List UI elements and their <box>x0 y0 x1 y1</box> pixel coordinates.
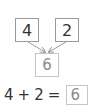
equation: 4 + 2 = 6 <box>4 84 88 105</box>
result-box: 6 <box>66 85 88 105</box>
whole-box: 6 <box>35 53 59 77</box>
operator: + <box>18 86 31 104</box>
equals-sign: = <box>48 86 61 104</box>
operand-b: 2 <box>34 86 44 104</box>
whole-value: 6 <box>42 56 52 74</box>
operand-a: 4 <box>4 86 14 104</box>
result-value: 6 <box>70 86 80 104</box>
